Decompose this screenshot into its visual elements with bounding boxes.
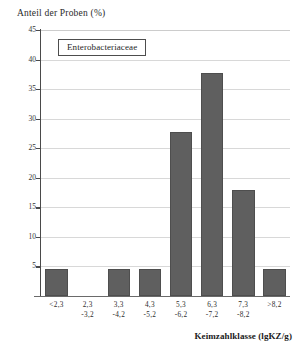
y-tick-label-20: 20 <box>20 174 36 182</box>
x-tick-label-line1: 7,3 <box>238 300 248 309</box>
x-axis-tick-labels: <2,32,3-3,23,3-4,24,3-5,25,3-6,26,3-7,27… <box>41 300 290 330</box>
legend-enterobacteriaceae: Enterobacteriaceae <box>58 39 146 56</box>
y-tick-mark-10 <box>36 237 41 238</box>
y-tick-label-15: 15 <box>20 203 36 211</box>
x-tick-label-8: >8,2 <box>253 300 296 310</box>
x-tick-label-line1: 2,3 <box>83 300 93 309</box>
y-tick-mark-45 <box>36 30 41 31</box>
x-axis-line <box>34 296 290 297</box>
bar--2-3 <box>45 269 67 296</box>
bar-4-3-5-2 <box>139 269 161 296</box>
x-tick-label-line1: 6,3 <box>207 300 217 309</box>
x-tick-label-line1: <2,3 <box>49 300 63 309</box>
y-tick-label-10: 10 <box>20 233 36 241</box>
y-tick-label-25: 25 <box>20 144 36 152</box>
x-tick-label-line2: -8,2 <box>222 310 265 320</box>
y-tick-label-30: 30 <box>20 115 36 123</box>
y-tick-label-40: 40 <box>20 56 36 64</box>
x-tick-label-line1: >8,2 <box>267 300 281 309</box>
bar-5-3-6-2 <box>170 132 192 296</box>
y-tick-mark-35 <box>36 89 41 90</box>
y-tick-mark-5 <box>36 266 41 267</box>
bar-3-3-4-2 <box>108 269 130 296</box>
y-tick-label-5: 5 <box>20 262 36 270</box>
y-axis-tick-labels: 51015202530354045 <box>14 0 36 354</box>
x-tick-label-line1: 5,3 <box>176 300 186 309</box>
y-tick-mark-20 <box>36 178 41 179</box>
y-tick-label-35: 35 <box>20 85 36 93</box>
bar-series <box>41 30 290 296</box>
y-tick-mark-30 <box>36 119 41 120</box>
y-tick-mark-25 <box>36 148 41 149</box>
y-tick-mark-40 <box>36 60 41 61</box>
x-tick-label-line1: 3,3 <box>114 300 124 309</box>
bar--8-2 <box>263 269 285 296</box>
x-axis-title: Keimzahlklasse (lgKZ/g) <box>194 331 292 341</box>
bar-7-3-8-2 <box>232 190 254 296</box>
bar-6-3-7-2 <box>201 73 223 296</box>
y-tick-mark-15 <box>36 207 41 208</box>
x-tick-label-line1: 4,3 <box>145 300 155 309</box>
y-tick-label-45: 45 <box>20 26 36 34</box>
chart-figure: Anteil der Proben (%) 51015202530354045 … <box>0 0 303 354</box>
